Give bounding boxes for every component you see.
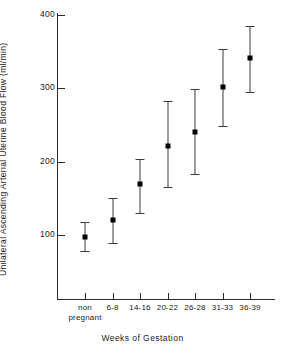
data-point-marker (138, 182, 143, 187)
x-tick-mark (113, 293, 114, 300)
error-bar-cap-lower (191, 174, 200, 175)
error-bar-cap-lower (136, 213, 145, 214)
error-bar-cap-upper (136, 159, 145, 160)
error-bar-cap-lower (246, 92, 255, 93)
data-point-marker (110, 218, 115, 223)
error-bar-cap-lower (218, 126, 227, 127)
error-bar-cap-lower (81, 251, 90, 252)
x-tick-label: 26-28 (184, 303, 205, 313)
error-bar-cap-upper (81, 222, 90, 223)
x-axis-line (57, 299, 275, 300)
x-tick-label: 6-8 (106, 303, 118, 313)
data-point-marker (83, 235, 88, 240)
data-point-marker (220, 84, 225, 89)
y-axis-title: Unilateral Ascending Arterial Uterine Bl… (0, 46, 8, 276)
x-tick-mark (195, 293, 196, 300)
x-tick-mark (250, 293, 251, 300)
x-tick-mark (85, 293, 86, 300)
data-point-marker (165, 143, 170, 148)
x-tick-mark (140, 293, 141, 300)
x-axis-title: Weeks of Gestation (0, 333, 285, 343)
x-tick-mark (168, 293, 169, 300)
error-bar-cap-lower (163, 187, 172, 188)
x-tick-label: nonpregnant (68, 303, 101, 323)
error-bar-cap-upper (218, 49, 227, 50)
y-tick-label: 200 (40, 156, 55, 166)
error-bar-cap-upper (191, 89, 200, 90)
error-bar-cap-lower (108, 243, 117, 244)
y-axis-line (57, 13, 58, 300)
error-bar-cap-upper (246, 26, 255, 27)
y-tick-mark (58, 15, 65, 16)
x-tick-mark (223, 293, 224, 300)
chart-figure: Unilateral Ascending Arterial Uterine Bl… (0, 0, 285, 352)
x-tick-label: 14-16 (129, 303, 150, 313)
y-tick-label: 300 (40, 82, 55, 92)
error-bar-cap-upper (163, 101, 172, 102)
x-tick-label: 31-33 (212, 303, 233, 313)
x-tick-label: 36-39 (239, 303, 260, 313)
y-tick-mark (58, 235, 65, 236)
data-point-marker (193, 130, 198, 135)
y-tick-mark (58, 162, 65, 163)
y-tick-label: 100 (40, 229, 55, 239)
y-tick-mark (58, 88, 65, 89)
y-tick-label: 400 (40, 9, 55, 19)
error-bar-cap-upper (108, 198, 117, 199)
x-tick-label: 20-22 (157, 303, 178, 313)
data-point-marker (248, 55, 253, 60)
